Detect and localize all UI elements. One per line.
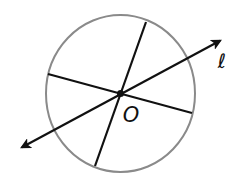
center-label: O (123, 103, 140, 127)
line-l-label: ℓ (217, 49, 226, 73)
center-point (117, 90, 124, 97)
geometry-diagram: O ℓ (0, 0, 243, 179)
